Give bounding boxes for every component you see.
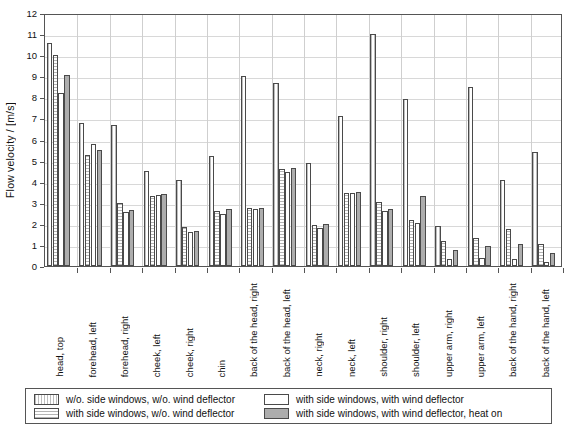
bar	[156, 195, 161, 266]
y-tick-label: 5	[32, 157, 37, 167]
bar	[538, 244, 543, 266]
bar	[129, 210, 134, 266]
bar	[420, 196, 425, 266]
bar	[453, 250, 458, 266]
legend-label: w/o. side windows, w/o. wind deflector	[66, 394, 235, 405]
bar	[123, 212, 128, 266]
y-tick-label: 7	[32, 115, 37, 125]
bar	[468, 87, 473, 266]
y-tick-label: 12	[26, 9, 37, 19]
bar	[532, 152, 537, 266]
bar	[111, 125, 116, 266]
y-tick-label: 8	[32, 94, 37, 104]
legend-item: with side windows, w/o. wind deflector	[34, 408, 234, 419]
x-tick-mark	[563, 268, 564, 273]
bar	[79, 123, 84, 266]
bar	[161, 194, 166, 266]
bar-series-layer	[45, 15, 561, 266]
x-axis-label: head, top	[55, 337, 65, 377]
bar	[47, 43, 52, 266]
bar	[188, 232, 193, 266]
bar	[441, 241, 446, 266]
bar	[291, 168, 296, 266]
bar	[344, 193, 349, 266]
bar	[144, 171, 149, 266]
bar	[403, 99, 408, 266]
bar	[415, 223, 420, 266]
bar	[435, 226, 440, 266]
x-axis-label: forehead, right	[120, 316, 130, 377]
legend-item: with side windows, with wind deflector	[264, 394, 464, 405]
bar	[376, 202, 381, 266]
bar	[273, 83, 278, 266]
x-axis-label: neck, left	[347, 339, 357, 377]
plot-area	[44, 14, 562, 267]
bar	[209, 156, 214, 266]
y-axis-ticks: 0123456789101112	[0, 14, 44, 267]
x-axis-label: back of the head, left	[282, 289, 292, 377]
bar	[117, 203, 122, 266]
bar	[97, 150, 102, 266]
x-axis-label: neck, right	[314, 333, 324, 377]
bar	[447, 259, 452, 266]
bar	[279, 169, 284, 266]
x-axis-label: upper arm, left	[476, 316, 486, 377]
legend-swatch	[34, 408, 59, 419]
x-axis-label: back of the head, right	[249, 283, 259, 377]
y-tick-label: 1	[32, 241, 37, 251]
bar	[500, 180, 505, 266]
x-axis-label: shoulder, left	[411, 323, 421, 377]
y-tick-label: 6	[32, 136, 37, 146]
bar	[91, 144, 96, 266]
x-axis-label: upper arm, right	[444, 310, 454, 377]
x-axis-label: chin	[217, 360, 227, 377]
legend-swatch	[34, 394, 59, 405]
y-tick-label: 0	[32, 262, 37, 272]
bar	[226, 209, 231, 266]
y-tick-label: 4	[32, 178, 37, 188]
legend-swatch	[264, 408, 289, 419]
y-tick-label: 11	[27, 30, 37, 40]
y-tick-label: 10	[26, 51, 37, 61]
bar	[285, 172, 290, 266]
x-axis-label: cheek, right	[185, 328, 195, 377]
y-tick-label: 3	[32, 199, 37, 209]
legend-label: with side windows, w/o. wind deflector	[66, 408, 234, 419]
y-tick-label: 2	[32, 220, 37, 230]
x-axis-label: back of the hand, left	[541, 289, 551, 377]
bar	[58, 93, 63, 266]
x-axis-label: shoulder, right	[379, 317, 389, 377]
bar	[479, 258, 484, 266]
legend-item: with side windows, with wind deflector, …	[264, 408, 502, 419]
legend-label: with side windows, with wind deflector	[296, 394, 464, 405]
bar	[550, 253, 555, 266]
bar	[241, 76, 246, 266]
bar	[356, 192, 361, 266]
x-axis-label: back of the hand, right	[508, 283, 518, 377]
bar	[350, 193, 355, 266]
bar	[194, 231, 199, 266]
bar	[220, 214, 225, 266]
bar	[64, 75, 69, 266]
x-axis-label: cheek, left	[152, 334, 162, 377]
bar	[473, 238, 478, 266]
bar	[214, 211, 219, 266]
bar	[382, 211, 387, 266]
x-axis-category-labels: head, topforehead, leftforehead, rightch…	[44, 272, 562, 377]
bar	[247, 208, 252, 266]
bar	[518, 244, 523, 266]
bar	[312, 225, 317, 266]
bar	[306, 163, 311, 266]
bar	[253, 209, 258, 266]
bar	[150, 196, 155, 266]
legend-label: with side windows, with wind deflector, …	[296, 408, 502, 419]
flow-velocity-bar-chart: Flow velocity / [m/s] 0123456789101112 h…	[0, 0, 577, 380]
bar	[323, 224, 328, 266]
bar	[176, 180, 181, 266]
x-axis-label: forehead, left	[88, 322, 98, 377]
y-tick-mark	[40, 267, 44, 268]
bar	[259, 208, 264, 266]
bar	[506, 229, 511, 266]
legend-swatch	[264, 394, 289, 405]
bar	[485, 246, 490, 266]
